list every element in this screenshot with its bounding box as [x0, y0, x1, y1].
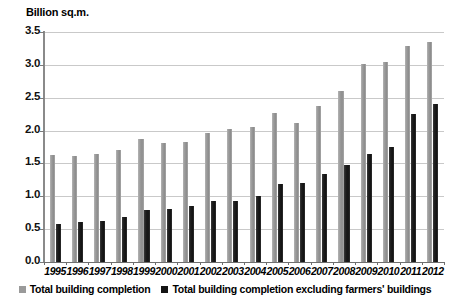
bar-gray-2002[interactable]	[205, 133, 210, 262]
x-axis-tick	[266, 262, 267, 265]
x-axis-tick	[222, 262, 223, 265]
y-axis-tick-label: 0.5	[0, 221, 40, 233]
bar-gray-2007[interactable]	[316, 106, 321, 262]
y-axis-tick	[40, 229, 44, 230]
x-axis-tick	[244, 262, 245, 265]
bar-dark-2005[interactable]	[278, 184, 283, 262]
bar-gray-1998[interactable]	[116, 150, 121, 262]
y-axis-tick	[40, 163, 44, 164]
bar-dark-2003[interactable]	[233, 201, 238, 262]
plot-area	[44, 32, 444, 262]
bar-gray-1995[interactable]	[50, 155, 55, 262]
bar-gray-2006[interactable]	[294, 123, 299, 262]
y-axis-tick	[40, 131, 44, 132]
bar-gray-2004[interactable]	[250, 127, 255, 262]
bar-gray-1999[interactable]	[138, 139, 143, 262]
x-axis-tick	[111, 262, 112, 265]
x-axis-tick	[177, 262, 178, 265]
y-axis-tick-label: 2.5	[0, 90, 40, 102]
bar-dark-2001[interactable]	[189, 206, 194, 262]
legend-label: Total building completion	[30, 283, 151, 295]
bar-dark-2006[interactable]	[300, 183, 305, 263]
chart-legend: Total building completion Total building…	[0, 283, 450, 295]
bar-dark-2002[interactable]	[211, 201, 216, 262]
legend-item-total-building-completion[interactable]: Total building completion	[19, 283, 151, 295]
x-axis-tick-label-2012: 2012	[420, 265, 446, 277]
bar-gray-2009[interactable]	[361, 64, 366, 262]
y-axis-tick-label: 0.0	[0, 254, 40, 266]
y-axis-tick-label: 2.0	[0, 123, 40, 135]
bar-dark-1996[interactable]	[78, 222, 83, 262]
y-axis-tick	[40, 32, 44, 33]
bar-gray-2011[interactable]	[405, 46, 410, 262]
bar-dark-2000[interactable]	[167, 209, 172, 262]
bars-layer	[44, 32, 444, 262]
legend-item-excluding-farmers-buildings[interactable]: Total building completion excluding farm…	[161, 283, 431, 295]
bar-dark-2009[interactable]	[367, 154, 372, 262]
bar-dark-2012[interactable]	[433, 104, 438, 262]
x-axis-tick	[377, 262, 378, 265]
x-axis-tick	[400, 262, 401, 265]
x-axis-tick	[133, 262, 134, 265]
bar-dark-1997[interactable]	[100, 221, 105, 262]
bar-gray-2005[interactable]	[272, 113, 277, 262]
bar-gray-2003[interactable]	[227, 129, 232, 262]
x-axis-tick	[333, 262, 334, 265]
chart-axis-title: Billion sq.m.	[26, 6, 89, 18]
bar-gray-2010[interactable]	[383, 62, 388, 262]
bar-gray-2012[interactable]	[427, 42, 432, 262]
dark-swatch-icon	[161, 286, 168, 293]
bar-dark-2007[interactable]	[322, 174, 327, 262]
x-axis-tick	[44, 262, 45, 265]
y-axis-tick	[40, 196, 44, 197]
y-axis-tick	[40, 65, 44, 66]
y-axis-tick-label: 1.5	[0, 155, 40, 167]
x-axis-tick	[200, 262, 201, 265]
bar-gray-2008[interactable]	[338, 91, 343, 262]
x-axis-tick	[444, 262, 445, 265]
x-axis-tick	[288, 262, 289, 265]
legend-label: Total building completion excluding farm…	[172, 283, 431, 295]
y-axis-tick-label: 3.5	[0, 24, 40, 36]
bar-gray-2000[interactable]	[161, 143, 166, 262]
bar-dark-2011[interactable]	[411, 114, 416, 263]
x-axis-tick	[88, 262, 89, 265]
x-axis-tick	[355, 262, 356, 265]
x-axis-tick	[155, 262, 156, 265]
bar-chart: Billion sq.m. 3.53.02.52.01.51.00.50.0 1…	[0, 0, 450, 305]
x-axis-tick	[422, 262, 423, 265]
bar-dark-2010[interactable]	[389, 147, 394, 262]
y-axis-tick-label: 3.0	[0, 57, 40, 69]
bar-dark-2008[interactable]	[344, 165, 349, 262]
bar-dark-1995[interactable]	[56, 224, 61, 262]
y-axis-tick-label: 1.0	[0, 188, 40, 200]
bar-dark-2004[interactable]	[256, 196, 261, 262]
x-axis-tick	[66, 262, 67, 265]
bar-gray-1997[interactable]	[94, 154, 99, 262]
bar-dark-1999[interactable]	[144, 210, 149, 262]
bar-gray-1996[interactable]	[72, 156, 77, 262]
bar-dark-1998[interactable]	[122, 217, 127, 262]
gray-swatch-icon	[19, 286, 26, 293]
y-axis-tick	[40, 98, 44, 99]
bar-gray-2001[interactable]	[183, 142, 188, 262]
x-axis-tick	[311, 262, 312, 265]
